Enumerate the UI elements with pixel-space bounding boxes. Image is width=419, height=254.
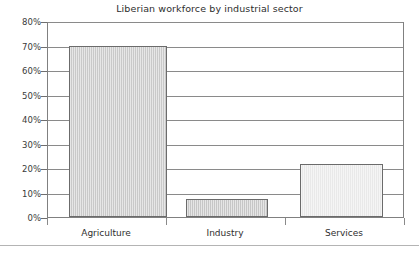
x-category-label-industry: Industry xyxy=(206,228,243,238)
y-axis: 80% 70% 60% 50% 40% 30% 20% 10% 0% xyxy=(3,22,41,218)
gridline-80 xyxy=(48,22,403,23)
plot-area xyxy=(47,22,404,218)
y-tick-label-60: 60% xyxy=(7,66,41,76)
x-category-label-agriculture: Agriculture xyxy=(81,228,131,238)
chart-figure: Liberian workforce by industrial sector … xyxy=(0,0,419,254)
x-tick-mark-3 xyxy=(404,218,405,225)
y-tick-label-40: 40% xyxy=(7,115,41,125)
x-tick-mark-2 xyxy=(285,218,286,225)
y-tick-label-20: 20% xyxy=(7,164,41,174)
y-tick-label-50: 50% xyxy=(7,91,41,101)
y-tick-label-30: 30% xyxy=(7,140,41,150)
bar-agriculture xyxy=(69,46,167,218)
y-tick-label-80: 80% xyxy=(7,17,41,27)
chart-title: Liberian workforce by industrial sector xyxy=(0,3,419,14)
y-tick-label-70: 70% xyxy=(7,42,41,52)
y-tick-label-10: 10% xyxy=(7,189,41,199)
x-tick-mark-0 xyxy=(47,218,48,225)
bar-industry xyxy=(186,199,268,217)
bottom-divider xyxy=(0,245,419,246)
y-tick-label-0: 0% xyxy=(7,213,41,223)
x-tick-mark-1 xyxy=(166,218,167,225)
bar-services xyxy=(300,164,383,217)
x-category-label-services: Services xyxy=(325,228,363,238)
